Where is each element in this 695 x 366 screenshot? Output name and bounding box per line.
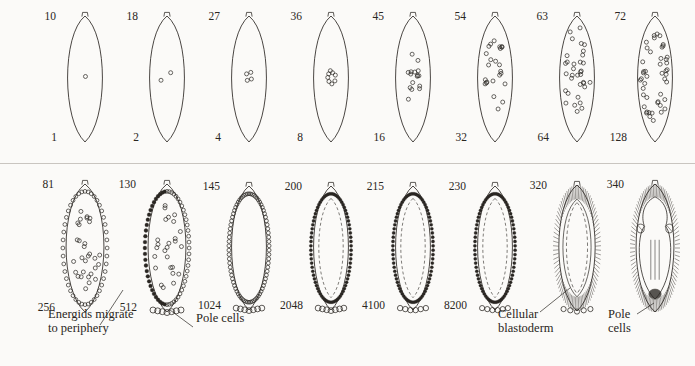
blastoderm-cell-wall [595,257,600,260]
nucleus-marker [580,106,584,110]
embryo-stage: 81256 [38,178,109,313]
blastoderm-nucleus [266,265,270,269]
blastoderm-cell-wall [675,255,680,257]
nucleus-marker [406,97,410,101]
cortical-nucleus [105,246,109,250]
nucleus-marker [573,103,577,107]
blastoderm-nucleus [431,236,434,239]
blastoderm-nucleus [345,212,348,215]
nucleus-marker [660,71,664,75]
blastoderm-nucleus [349,261,352,264]
pole-cell [259,305,265,311]
blastoderm-nucleus [349,236,352,239]
egg-outline [314,16,349,142]
interior-nucleus [84,287,88,291]
nucleus-marker [159,78,163,82]
cortical-nucleus [104,262,108,266]
interior-nucleus [79,209,83,213]
cortical-nucleus [98,289,102,293]
blastoderm-cell-wall [595,228,600,233]
nucleus-marker [659,110,663,114]
cortical-nucleus [103,270,107,274]
blastoderm-nucleus [309,244,312,247]
cortical-nucleus [183,213,187,217]
nucleus-marker [410,52,414,56]
egg-outline [232,186,267,310]
blastoderm-cell-wall [659,185,660,198]
blastoderm-cell-wall [671,208,675,216]
nucleus-marker [583,85,587,89]
embryo-stage: 2308200 [444,180,517,313]
blastoderm-cell-wall [638,285,641,294]
blastoderm-nucleus [475,270,478,273]
nucleus-marker [497,63,501,67]
blastoderm-nucleus [473,240,476,243]
blastoderm-nucleus [309,240,312,243]
blastoderm-cell-wall [638,201,641,210]
blastoderm-cell-wall [675,244,680,245]
blastoderm-cell-wall [595,237,600,240]
blastoderm-nucleus [432,244,435,247]
blastoderm-nucleus [479,209,482,212]
blastoderm-nucleus [492,192,495,195]
blastoderm-cell-wall [631,231,636,234]
blastoderm-nucleus [229,269,233,273]
blastoderm-nucleus [397,284,400,287]
time-label: 36 [291,10,303,22]
blastoderm-nucleus [477,216,480,219]
blastoderm-nucleus [513,257,516,260]
blastoderm-nucleus [392,231,395,234]
blastoderm-cell-wall [595,260,600,264]
blastoderm-nucleus [313,216,316,219]
blastoderm-nucleus [228,261,232,265]
nucleus-marker [658,62,662,66]
cortical-nucleus [183,279,187,283]
blastoderm-nucleus [346,216,349,219]
blastoderm-nucleus [511,274,514,277]
energids-migrate-line2: to periphery [48,321,109,335]
blastoderm-cell-wall [592,211,596,219]
cortical-nucleus [144,229,148,233]
blastoderm-cell-wall [630,255,635,257]
interior-nucleus [167,241,171,245]
pole-cell [413,307,418,312]
blastoderm-nucleus [311,227,314,230]
blastoderm-nucleus [344,209,347,212]
blastoderm-nucleus [328,192,331,195]
blastoderm-nucleus [510,216,513,219]
nucleus-marker [496,107,500,111]
cortical-nucleus [147,279,151,283]
yolk-boundary [401,198,425,297]
nucleus-marker [578,101,582,105]
nucleus-marker [249,70,253,74]
cortical-nucleus [61,238,65,242]
embryogenesis-figure: 1011822743684516543263647212881256130512… [0,0,695,366]
nuclei-count-label: 4 [215,131,221,143]
blastoderm-nucleus [476,219,479,222]
cellular-blastoderm-line2: blastoderm [498,321,554,335]
blastoderm-cell-wall [670,283,674,292]
cortical-nucleus [104,230,108,234]
blastoderm-cell-wall [632,268,637,273]
interior-nucleus [74,270,78,274]
interior-nucleus [172,219,176,223]
cortical-nucleus [167,190,171,194]
blastoderm-nucleus [431,240,434,243]
pole-cell [588,306,593,311]
blastoderm-nucleus [431,257,434,260]
energids-migrate-line1: Energids migrate [48,307,134,321]
blastoderm-nucleus [264,215,268,219]
blastoderm-nucleus [510,277,513,280]
cortical-nucleus [64,215,68,219]
blastoderm-nucleus [309,253,312,256]
embryo-stage: 182 [127,10,185,143]
cortical-nucleus [150,288,154,292]
blastoderm-cell-wall [670,204,674,213]
blastoderm-nucleus [431,231,434,234]
blastoderm-cell-wall [553,241,558,243]
blastoderm-nucleus [348,227,351,230]
embryo-stage: 368 [291,10,349,143]
interior-nucleus [178,230,182,234]
blastoderm-nucleus [311,223,314,226]
cortical-nucleus [62,262,66,266]
